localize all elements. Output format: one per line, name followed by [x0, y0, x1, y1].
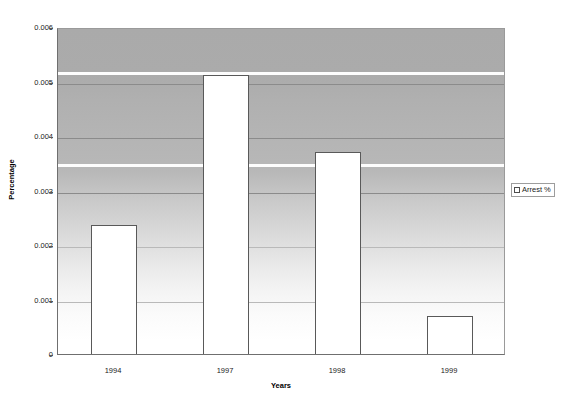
y-axis-tick-label: 0.004 [7, 133, 53, 141]
bar [203, 75, 249, 355]
x-axis-tick-label: 1997 [195, 366, 255, 375]
legend-swatch-icon [514, 187, 520, 193]
gridline [58, 138, 504, 139]
y-axis-tick-label: 0.001 [7, 297, 53, 305]
bar-chart: 00.0010.0020.0030.0040.0050.006 Percenta… [0, 0, 575, 409]
y-axis-tick-mark [49, 137, 53, 138]
x-axis-tick-label: 1998 [307, 366, 367, 375]
y-axis-tick-mark [49, 301, 53, 302]
y-axis-tick-mark [49, 83, 53, 84]
y-axis-tick-mark [49, 192, 53, 193]
y-axis-title: Percentage [7, 145, 16, 215]
y-axis-tick-label: 0.005 [7, 79, 53, 87]
y-axis-tick-label: 0.002 [7, 242, 53, 250]
gridline [58, 84, 504, 85]
gridline [58, 193, 504, 194]
legend-label: Arrest % [522, 186, 551, 194]
bar [427, 316, 473, 355]
x-axis-tick-label: 1999 [419, 366, 479, 375]
y-axis-tick-mark [49, 28, 53, 29]
highlight-band [58, 164, 504, 167]
y-axis-tick-label: 0.006 [7, 24, 53, 32]
y-axis-tick-mark [49, 355, 53, 356]
plot-area [57, 28, 505, 355]
highlight-band [58, 72, 504, 75]
chart-legend: Arrest % [511, 183, 555, 197]
y-axis-tick-label: 0 [7, 351, 53, 359]
x-axis-tick-label: 1994 [83, 366, 143, 375]
y-axis-tick-mark [49, 246, 53, 247]
bar [91, 225, 137, 355]
x-axis-title: Years [57, 381, 505, 390]
bar [315, 152, 361, 355]
